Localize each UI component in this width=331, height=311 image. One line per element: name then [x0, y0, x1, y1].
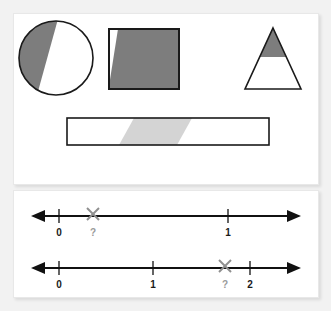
number-line-2-label-1: 1: [150, 279, 156, 290]
number-line-1: 0 ? 1: [31, 208, 301, 238]
shaded-rectangle: [109, 29, 184, 94]
shaded-triangle: [239, 24, 309, 89]
shaded-shapes-panel: [13, 13, 319, 185]
number-lines-panel: 0 ? 1 0: [13, 190, 319, 298]
number-line-1-label-unknown: ?: [90, 227, 96, 238]
number-lines-canvas: 0 ? 1 0: [14, 191, 318, 297]
number-line-1-x-marker: [87, 208, 99, 220]
number-line-1-label-0: 0: [56, 227, 62, 238]
number-line-2-left-arrow: [31, 262, 45, 274]
number-line-2-right-arrow: [287, 262, 301, 274]
rectangle-shaded-region: [109, 29, 184, 94]
shaded-bar: [67, 118, 269, 145]
number-line-2-label-0: 0: [56, 279, 62, 290]
number-line-2-label-unknown: ?: [222, 279, 228, 290]
number-line-1-right-arrow: [287, 210, 301, 222]
number-line-1-left-arrow: [31, 210, 45, 222]
number-line-1-label-1: 1: [225, 227, 231, 238]
number-line-2-label-2: 2: [247, 279, 253, 290]
number-line-2-x-marker: [219, 260, 231, 272]
shaded-circle: [14, 19, 93, 106]
number-line-2: 0 1 ? 2: [31, 260, 301, 290]
shapes-canvas: [14, 14, 318, 184]
worksheet-root: 0 ? 1 0: [0, 0, 331, 311]
circle-shaded-region: [14, 19, 58, 106]
